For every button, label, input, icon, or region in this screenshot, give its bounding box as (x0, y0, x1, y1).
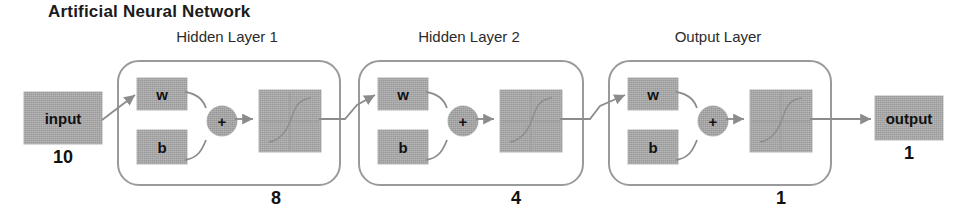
summation-node: + (448, 106, 478, 136)
layer-container-output: w b + (608, 60, 832, 186)
layer-caption-hidden-1: Hidden Layer 1 (117, 28, 337, 45)
layer-container-hidden-2: w b + (358, 60, 584, 186)
summation-node: + (207, 106, 237, 136)
neural-network-diagram: Artificial Neural Network Hidden Layer 1… (0, 0, 974, 223)
output-unit-count: 1 (875, 143, 943, 164)
page-title: Artificial Neural Network (48, 2, 250, 22)
activation-curve-icon (259, 90, 321, 152)
layer-container-hidden-1: w b + (117, 60, 341, 186)
bias-block: b (137, 130, 187, 164)
summation-node: + (698, 106, 728, 136)
activation-curve-icon (750, 90, 812, 152)
input-node: input (24, 92, 102, 144)
input-unit-count: 10 (24, 147, 102, 168)
layer-unit-count-hidden-2: 4 (496, 188, 536, 209)
weight-block: w (378, 78, 428, 110)
layer-caption-hidden-2: Hidden Layer 2 (358, 28, 580, 45)
layer-unit-count-hidden-1: 8 (256, 188, 296, 209)
layer-unit-count-output: 1 (761, 188, 801, 209)
activation-function-block (500, 90, 562, 152)
bias-block: b (378, 130, 428, 164)
activation-function-block (750, 90, 812, 152)
activation-function-block (259, 90, 321, 152)
bias-block: b (628, 130, 678, 164)
weight-block: w (628, 78, 678, 110)
activation-curve-icon (500, 90, 562, 152)
output-node: output (875, 96, 943, 140)
weight-block: w (137, 78, 187, 110)
layer-caption-output: Output Layer (608, 28, 828, 45)
